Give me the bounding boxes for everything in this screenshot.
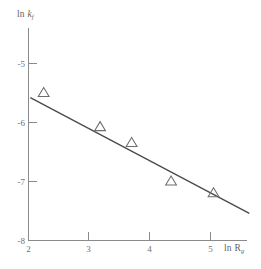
fit-line <box>30 98 249 214</box>
data-point-marker <box>38 87 49 96</box>
x-axis-title: ln Rg <box>224 243 244 254</box>
data-point-marker <box>166 176 177 185</box>
x-axis-title-prefix: ln <box>224 243 234 253</box>
chart-figure: -5 -6 -7 -8 2 3 4 5 ln kf ln Rg <box>0 0 261 269</box>
data-point-marker <box>126 138 137 147</box>
y-tick-label: -6 <box>18 118 26 128</box>
y-axis-title-subscript: f <box>32 13 34 20</box>
data-point-markers <box>38 87 219 196</box>
y-tick-label: -7 <box>18 177 26 187</box>
x-tick-label: 4 <box>147 244 152 254</box>
y-tick-label: -8 <box>18 236 26 246</box>
y-axis-title: ln kf <box>17 9 34 20</box>
x-axis-title-subscript: g <box>241 247 245 254</box>
x-tick-label: 3 <box>86 244 91 254</box>
x-tick-label: 5 <box>208 244 213 254</box>
scatter-plot: -5 -6 -7 -8 2 3 4 5 <box>0 0 261 269</box>
y-tick-label: -5 <box>18 59 26 69</box>
x-tick-label: 2 <box>26 244 31 254</box>
data-point-marker <box>95 122 106 131</box>
y-axis-title-prefix: ln <box>17 9 27 19</box>
